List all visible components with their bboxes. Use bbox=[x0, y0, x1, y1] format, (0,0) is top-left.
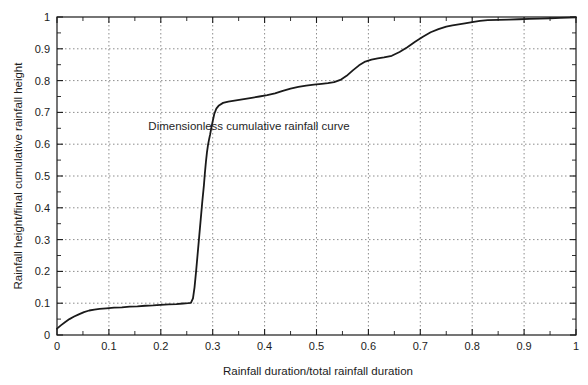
y-tick-label: 0.8 bbox=[35, 75, 50, 87]
y-tick-label: 0.3 bbox=[35, 234, 50, 246]
x-tick-label: 0.2 bbox=[153, 340, 168, 352]
x-tick-label: 0.5 bbox=[309, 340, 324, 352]
chart-figure: 00.10.20.30.40.50.60.70.80.91 00.10.20.3… bbox=[0, 0, 588, 385]
x-tick-label: 0.7 bbox=[413, 340, 428, 352]
x-tick-label: 0.1 bbox=[101, 340, 116, 352]
rainfall-cumulative-chart: 00.10.20.30.40.50.60.70.80.91 00.10.20.3… bbox=[0, 0, 588, 385]
y-tick-label: 0.6 bbox=[35, 138, 50, 150]
x-tick-label: 1 bbox=[573, 340, 579, 352]
x-tick-label: 0.6 bbox=[361, 340, 376, 352]
x-tick-label: 0 bbox=[54, 340, 60, 352]
y-tick-label: 0.7 bbox=[35, 106, 50, 118]
y-tick-label: 0.1 bbox=[35, 297, 50, 309]
x-tick-label: 0.4 bbox=[257, 340, 272, 352]
y-tick-label: 1 bbox=[44, 11, 50, 23]
y-tick-label: 0 bbox=[44, 329, 50, 341]
y-tick-label: 0.9 bbox=[35, 43, 50, 55]
x-axis-title: Rainfall duration/total rainfall duratio… bbox=[223, 365, 413, 377]
y-tick-label: 0.2 bbox=[35, 265, 50, 277]
x-tick-label: 0.3 bbox=[205, 340, 220, 352]
x-tick-label: 0.8 bbox=[465, 340, 480, 352]
y-tick-label: 0.4 bbox=[35, 202, 50, 214]
y-tick-label: 0.5 bbox=[35, 170, 50, 182]
x-tick-label: 0.9 bbox=[516, 340, 531, 352]
y-axis-title: Rainfall height/final cumulative rainfal… bbox=[12, 62, 24, 290]
curve-annotation-label: Dimensionless cumulative rainfall curve bbox=[148, 120, 349, 132]
chart-background bbox=[0, 0, 588, 385]
